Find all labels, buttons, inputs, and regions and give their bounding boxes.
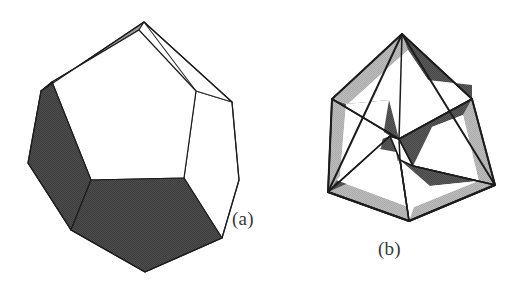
figure-a-faces <box>28 22 239 272</box>
figure-container: (a) <box>0 0 525 295</box>
polyhedron-figure-a <box>0 0 280 295</box>
figure-b-faces <box>328 34 495 221</box>
panel-b-caption: (b) <box>378 238 401 260</box>
spoke-3 <box>399 139 400 160</box>
panel-a-caption: (a) <box>232 208 254 230</box>
polyhedron-figure-b <box>280 0 525 295</box>
